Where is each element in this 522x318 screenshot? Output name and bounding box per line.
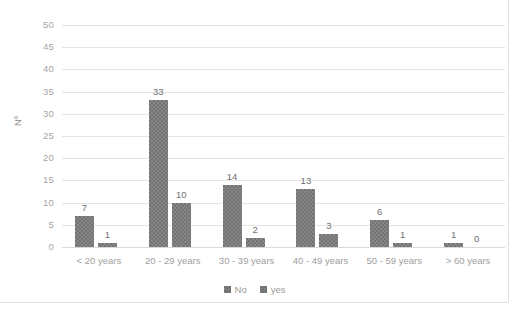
bar-value-label: 13 [290,176,321,186]
legend-swatch-icon [224,286,231,293]
bar[interactable] [296,189,315,247]
gridline [62,225,505,226]
gridline [62,92,505,93]
y-axis-tick-label: 15 [14,175,54,185]
y-axis-tick-label: 40 [14,64,54,74]
bar-value-label: 14 [217,172,248,182]
y-axis-tick-label: 35 [14,87,54,97]
plot-area: 7133101421336110 [62,25,505,247]
gridline [62,69,505,70]
gridline [62,203,505,204]
bar-value-label: 0 [461,234,492,244]
bar[interactable] [393,243,412,247]
y-axis-tick-label: 25 [14,131,54,141]
legend-item[interactable]: yes [260,285,286,295]
bar[interactable] [246,238,265,247]
gridline [62,180,505,181]
y-axis-tick-label: 30 [14,109,54,119]
y-axis-tick-label: 45 [14,42,54,52]
bar-value-label: 1 [92,230,123,240]
bar[interactable] [98,243,117,247]
bar[interactable] [172,203,191,247]
gridline [62,25,505,26]
bar-value-label: 2 [240,225,271,235]
x-axis-tick-label: > 60 years [423,256,513,266]
y-axis-tick-label: 0 [14,242,54,252]
bar-chart-figure: Nº 50454035302520151050 7133101421336110… [0,0,522,318]
gridline [62,158,505,159]
bar-value-label: 7 [69,203,100,213]
y-axis-tick-label: 5 [14,220,54,230]
bar[interactable] [223,185,242,247]
gridline [62,114,505,115]
x-axis-labels: < 20 years20 - 29 years30 - 39 years40 -… [62,256,505,272]
bar-value-label: 33 [143,87,174,97]
legend-swatch-icon [260,286,267,293]
legend-item[interactable]: No [224,285,247,295]
bar-value-label: 1 [387,230,418,240]
bar[interactable] [149,100,168,247]
legend-label: yes [271,285,286,295]
bar[interactable] [319,234,338,247]
y-axis-tick-label: 50 [14,20,54,30]
gridline [62,247,505,248]
bar-value-label: 3 [313,221,344,231]
gridline [62,136,505,137]
chart-legend: Noyes [0,285,509,295]
legend-label: No [235,285,247,295]
bar-value-label: 6 [364,207,395,217]
gridline [62,47,505,48]
y-axis-tick-label: 10 [14,198,54,208]
y-axis-tick-label: 20 [14,153,54,163]
y-axis-ticks: 50454035302520151050 [8,25,54,247]
bar-value-label: 10 [166,190,197,200]
